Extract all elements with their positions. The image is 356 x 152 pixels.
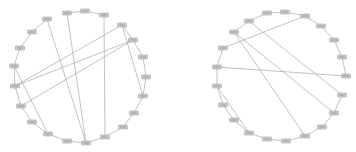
graph-node[interactable] <box>43 17 52 21</box>
left-circular-graph <box>10 9 151 145</box>
ring-edge <box>14 48 20 66</box>
ring-edge <box>14 66 15 86</box>
graph-node[interactable] <box>219 46 228 50</box>
graph-node[interactable] <box>17 104 26 108</box>
graph-node[interactable] <box>100 13 109 17</box>
graph-node[interactable] <box>330 111 339 115</box>
graph-node[interactable] <box>82 141 91 145</box>
graph-node[interactable] <box>213 65 222 69</box>
ring-edge <box>21 106 32 122</box>
graph-node[interactable] <box>118 23 127 27</box>
graph-node[interactable] <box>81 9 90 13</box>
chord-edge <box>47 19 86 143</box>
graph-node[interactable] <box>338 55 347 59</box>
graph-canvas <box>0 0 356 152</box>
ring-edge <box>334 40 342 57</box>
graph-node[interactable] <box>301 134 310 138</box>
graph-node[interactable] <box>139 94 148 98</box>
graph-node[interactable] <box>230 118 239 122</box>
graph-node[interactable] <box>245 131 254 135</box>
chord-edge <box>217 67 346 76</box>
graph-node[interactable] <box>213 84 222 88</box>
graph-node[interactable] <box>281 10 290 14</box>
graph-node[interactable] <box>129 38 138 42</box>
right-circular-graph <box>213 10 351 143</box>
chord-edge <box>15 40 133 86</box>
ring-edge <box>217 48 223 67</box>
graph-node[interactable] <box>11 84 20 88</box>
chord-edge <box>234 32 305 136</box>
graph-node[interactable] <box>263 137 272 141</box>
graph-node[interactable] <box>130 111 139 115</box>
graph-node[interactable] <box>142 75 151 79</box>
ring-edge <box>134 96 143 113</box>
graph-node[interactable] <box>230 30 239 34</box>
ring-edge <box>217 86 223 105</box>
graph-node[interactable] <box>119 125 128 129</box>
graph-node[interactable] <box>342 74 351 78</box>
ring-edge <box>15 86 21 106</box>
graph-node[interactable] <box>219 103 228 107</box>
graph-node[interactable] <box>245 19 254 23</box>
graph-node[interactable] <box>44 132 53 136</box>
chord-edge <box>104 15 105 137</box>
graph-node[interactable] <box>282 139 291 143</box>
ring-edge <box>143 57 146 77</box>
graph-node[interactable] <box>330 38 339 42</box>
graph-node[interactable] <box>10 64 19 68</box>
graph-diagram <box>0 0 356 152</box>
ring-edge <box>143 77 146 96</box>
graph-node[interactable] <box>318 125 327 129</box>
graph-node[interactable] <box>301 14 310 18</box>
chord-edge <box>67 13 86 143</box>
chord-edge <box>217 86 249 133</box>
ring-edge <box>122 25 143 96</box>
graph-node[interactable] <box>28 30 37 34</box>
graph-node[interactable] <box>317 24 326 28</box>
graph-node[interactable] <box>338 93 347 97</box>
ring-edge <box>20 32 32 48</box>
graph-node[interactable] <box>63 139 72 143</box>
ring-edge <box>342 57 346 76</box>
graph-node[interactable] <box>28 120 37 124</box>
ring-edge <box>334 95 342 113</box>
graph-node[interactable] <box>139 55 148 59</box>
chord-edge <box>234 32 334 113</box>
graph-node[interactable] <box>101 135 110 139</box>
ring-edge <box>133 40 143 57</box>
graph-node[interactable] <box>16 46 25 50</box>
graph-node[interactable] <box>63 11 72 15</box>
graph-node[interactable] <box>263 11 272 15</box>
